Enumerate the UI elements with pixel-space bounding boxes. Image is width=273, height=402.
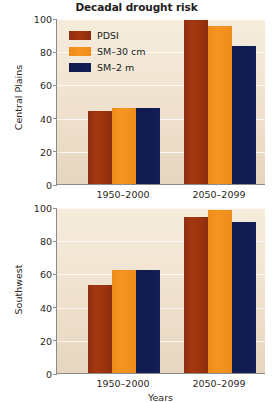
bar-bottom-g2-pdsi — [184, 217, 208, 373]
y-tick-top-0: 0 — [46, 180, 57, 191]
y-axis-label-bottom: Southwest — [13, 255, 24, 325]
y-tick-bottom-60: 60 — [40, 269, 57, 280]
y-tick-bottom-100: 100 — [34, 203, 57, 214]
chart-panel-central-plains: Central Plains 100 80 60 40 20 0 — [0, 14, 273, 200]
page-title: Decadal drought risk — [0, 1, 273, 13]
x-axis-label: Years — [56, 392, 265, 402]
y-tick-top-20: 20 — [40, 146, 57, 157]
x-tick-top-2050-2099: 2050–2099 — [192, 189, 245, 200]
legend-label-sm30: SM–30 cm — [97, 46, 146, 57]
bar-bottom-g1-pdsi — [88, 285, 112, 373]
bar-top-g1-sm30 — [112, 108, 136, 184]
plot-area-top: 100 80 60 40 20 0 PDSI SM–30 — [56, 19, 265, 185]
legend-swatch-sm30-icon — [69, 47, 91, 56]
y-tick-top-40: 40 — [40, 113, 57, 124]
y-tick-top-80: 80 — [40, 47, 57, 58]
legend-swatch-sm2-icon — [69, 63, 91, 72]
bar-top-g1-sm2 — [136, 108, 160, 184]
y-tick-top-100: 100 — [34, 14, 57, 25]
bar-bottom-g1-sm30 — [112, 270, 136, 373]
x-tick-bottom-2050-2099: 2050–2099 — [192, 378, 245, 389]
figure: Decadal drought risk Central Plains 100 … — [0, 0, 273, 402]
x-tick-top-1950-2000: 1950–2000 — [96, 189, 149, 200]
bar-bottom-g2-sm30 — [208, 210, 232, 373]
legend-label-pdsi: PDSI — [97, 30, 119, 41]
y-tick-top-60: 60 — [40, 80, 57, 91]
bar-top-g2-sm30 — [208, 26, 232, 184]
bar-bottom-g2-sm2 — [232, 222, 256, 373]
y-tick-bottom-0: 0 — [46, 369, 57, 380]
legend-item-sm30: SM–30 cm — [69, 44, 146, 58]
y-axis-label-top: Central Plains — [13, 58, 24, 138]
legend-label-sm2: SM–2 m — [97, 62, 134, 73]
bar-top-g2-pdsi — [184, 20, 208, 184]
legend-item-sm2: SM–2 m — [69, 60, 146, 74]
legend-swatch-pdsi-icon — [69, 31, 91, 40]
chart-panel-southwest: Southwest 100 80 60 40 20 0 1950–2000 20… — [0, 200, 273, 402]
bar-top-g1-pdsi — [88, 111, 112, 184]
bar-bottom-g1-sm2 — [136, 270, 160, 373]
legend: PDSI SM–30 cm SM–2 m — [69, 28, 146, 76]
y-tick-bottom-20: 20 — [40, 335, 57, 346]
y-tick-bottom-40: 40 — [40, 302, 57, 313]
y-tick-bottom-80: 80 — [40, 236, 57, 247]
bar-top-g2-sm2 — [232, 46, 256, 184]
plot-area-bottom: 100 80 60 40 20 0 — [56, 208, 265, 374]
legend-item-pdsi: PDSI — [69, 28, 146, 42]
x-tick-bottom-1950-2000: 1950–2000 — [96, 378, 149, 389]
